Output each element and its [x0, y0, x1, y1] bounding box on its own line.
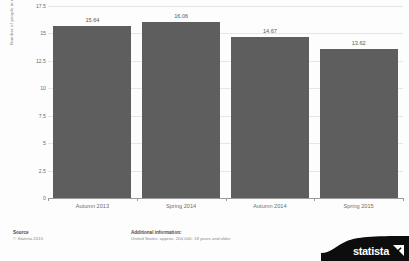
x-axis-tick-mark [137, 198, 138, 201]
chart-container: Number of people in millions 17.51512.51… [0, 0, 409, 261]
statista-arrow-icon [393, 245, 404, 256]
plot-area: Number of people in millions 17.51512.51… [0, 0, 409, 222]
source-text: © Statista 2015 [13, 236, 43, 242]
bar-value-label: 16.06 [137, 13, 226, 20]
x-axis-category-label: Autumn 2014 [226, 202, 315, 210]
x-axis-category-label: Spring 2015 [314, 202, 403, 210]
y-axis-tick-label: 12.5 [14, 58, 46, 64]
additional-information-text: United States; approx. 204,000; 18 years… [131, 236, 230, 242]
y-axis-tick-label: 0 [14, 195, 46, 201]
x-axis-tick-mark [226, 198, 227, 201]
x-axis-category-label: Spring 2014 [137, 202, 226, 210]
bar-value-label: 14.67 [226, 28, 315, 35]
bar[interactable] [53, 26, 131, 198]
bar-slot: 14.67 [226, 6, 315, 198]
bar[interactable] [231, 37, 309, 198]
bar[interactable] [142, 22, 220, 198]
x-axis-category-label: Autumn 2013 [48, 202, 137, 210]
x-axis-tick-mark [403, 198, 404, 201]
y-axis-tick-label: 5 [14, 140, 46, 146]
y-axis-tick-label: 10 [14, 85, 46, 91]
additional-information-block: Additional information: United States; a… [131, 230, 230, 242]
x-axis-category-labels: Autumn 2013Spring 2014Autumn 2014Spring … [48, 202, 403, 214]
y-axis-tick-label: 15 [14, 30, 46, 36]
y-axis-tick-label: 2.5 [14, 168, 46, 174]
bars-layer: 15.6416.0614.6713.62 [48, 6, 403, 198]
bar-slot: 16.06 [137, 6, 226, 198]
bar[interactable] [320, 49, 398, 198]
statista-logo: statista [321, 231, 409, 261]
bar-slot: 13.62 [314, 6, 403, 198]
chart-footer: Source © Statista 2015 Additional inform… [0, 228, 409, 261]
x-axis-tick-mark [48, 198, 49, 201]
y-axis-tick-labels: 17.51512.5107.552.50 [14, 6, 46, 198]
y-axis-tick-label: 17.5 [14, 3, 46, 9]
x-axis-tick-mark [314, 198, 315, 201]
source-block: Source © Statista 2015 [13, 230, 43, 242]
y-axis-tick-label: 7.5 [14, 113, 46, 119]
statista-wordmark: statista [353, 245, 389, 257]
bar-value-label: 15.64 [48, 17, 137, 24]
bar-slot: 15.64 [48, 6, 137, 198]
bar-value-label: 13.62 [314, 40, 403, 47]
